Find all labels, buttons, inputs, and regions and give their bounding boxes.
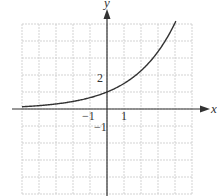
x-axis-label: x [210,101,217,116]
y-axis-label: y [102,0,110,10]
tick-label-x-1: 1 [121,109,127,123]
x-axis-arrow-icon [200,106,210,113]
exponential-curve [22,21,176,107]
tick-label-y-neg1: −1 [94,120,107,134]
exponential-graph: y x 2 −1 1 −1 [0,0,217,196]
tick-label-y-2: 2 [97,71,103,85]
tick-label-x-neg1: −1 [82,109,95,123]
y-axis-arrow-icon [104,9,111,19]
